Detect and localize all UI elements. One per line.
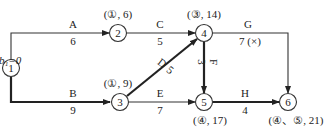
activity-b-duration: 9 — [70, 104, 76, 116]
activity-g-duration: 7 (×) — [239, 35, 261, 48]
activity-a-name: A — [69, 18, 77, 30]
svg-text:2: 2 — [115, 27, 121, 39]
svg-text:3: 3 — [117, 96, 123, 108]
activity-g-name: G — [244, 18, 252, 30]
node-5: 5 — [196, 94, 213, 111]
svg-text:4: 4 — [201, 27, 207, 39]
node-2-annotation: (①, 6) — [104, 8, 133, 21]
node-6: 6 — [280, 94, 297, 111]
activity-a-arrow — [11, 33, 109, 59]
activity-f-duration: 3 — [196, 59, 208, 65]
activity-e-name: E — [157, 87, 164, 99]
node-4: 4 — [196, 25, 213, 42]
activity-e-duration: 7 — [157, 104, 163, 116]
activity-b-name: B — [69, 87, 76, 99]
activity-h-name: H — [241, 87, 249, 99]
activity-d-duration: 5 — [165, 63, 177, 76]
node-5-annotation: (④, 17) — [193, 114, 227, 127]
node-4-annotation: (③, 14) — [187, 8, 221, 21]
node-3: 3 — [112, 94, 129, 111]
node-2: 2 — [110, 25, 127, 42]
activity-b-arrow — [11, 77, 110, 102]
node-6-annotation: (④、⑤, 21) — [269, 114, 324, 127]
activity-a-duration: 6 — [70, 35, 76, 47]
svg-text:5: 5 — [201, 96, 207, 108]
activity-f-name: F — [208, 59, 220, 65]
activity-c-name: C — [156, 18, 163, 30]
node-3-annotation: (①, 9) — [104, 77, 133, 90]
start-label: b₁=0 — [0, 54, 22, 66]
activity-c-duration: 5 — [157, 35, 163, 47]
network-diagram: 1 2 3 4 5 6 b₁=0 (①, 6) (①, 9) (③, 14) (… — [0, 0, 336, 129]
svg-text:6: 6 — [285, 96, 291, 108]
activity-h-duration: 4 — [242, 104, 248, 116]
